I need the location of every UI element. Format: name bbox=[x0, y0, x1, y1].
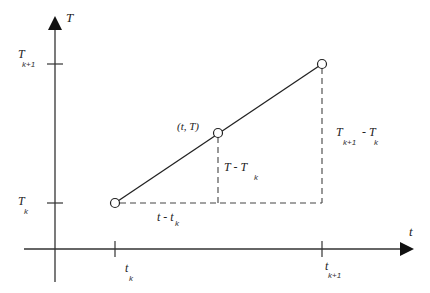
vertical-diff-end-main1: T bbox=[336, 125, 344, 139]
vertical-diff-end-sub1: k+1 bbox=[343, 138, 356, 147]
x-tick-label-tk-sub: k bbox=[129, 274, 134, 283]
y-axis-label: T bbox=[66, 10, 74, 25]
horizontal-diff-sub: k bbox=[175, 219, 180, 228]
y-tick-label-tk-sub: k bbox=[24, 207, 29, 216]
y-tick-label-tk1-main: T bbox=[18, 47, 26, 61]
point-end bbox=[318, 60, 327, 69]
vertical-diff-mid-main: T - T bbox=[224, 160, 248, 174]
x-axis-arrow-icon bbox=[400, 242, 414, 256]
vertical-diff-end-sub2: k bbox=[374, 138, 379, 147]
linear-interpolation-diagram: T t T k+1 T k t k t k+1 (t, T) t - t k T… bbox=[0, 0, 430, 293]
x-tick-label-tk1-sub: k+1 bbox=[328, 271, 341, 280]
diagram-svg: T t T k+1 T k t k t k+1 (t, T) t - t k T… bbox=[0, 0, 430, 293]
vertical-diff-mid-sub: k bbox=[254, 173, 259, 182]
y-tick-label-tk1-sub: k+1 bbox=[22, 60, 35, 69]
vertical-diff-end-main2: - T bbox=[362, 125, 377, 139]
point-start bbox=[111, 199, 120, 208]
y-axis-arrow-icon bbox=[48, 16, 62, 30]
x-tick-label-tk-main: t bbox=[125, 261, 129, 275]
horizontal-diff-main: t - t bbox=[157, 210, 174, 224]
point-mid bbox=[214, 129, 223, 138]
mid-point-label: (t, T) bbox=[177, 120, 199, 133]
y-tick-label-tk-main: T bbox=[18, 194, 26, 208]
x-axis-label: t bbox=[409, 224, 413, 239]
